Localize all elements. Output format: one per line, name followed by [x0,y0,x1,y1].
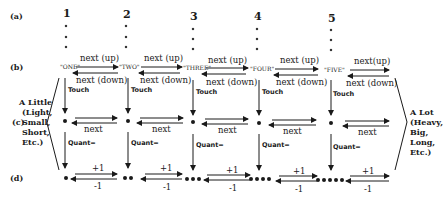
column-number-1: 1 [63,7,71,20]
word-one: "ONE" [60,63,80,70]
label-next-down-4: next (down) [276,77,327,87]
column-number-3: 3 [190,10,198,23]
left-side-line: Short, [19,127,52,137]
column-number-5: 5 [328,12,336,25]
label-next-c-5: next [358,127,377,137]
row-label-d: (d) [10,173,23,183]
label-next-up-1: next (up) [80,53,119,63]
diagram-lines [0,0,445,203]
label-quant-5: Quant= [333,143,361,151]
label-plus1-4: +1 [293,166,306,176]
label-plus1-2: +1 [160,163,173,173]
label-minus1-1: -1 [94,181,102,191]
left-side-line: (Light, [19,107,52,117]
right-side-label: A Lot (Heavy, Big, Long, Etc.) [410,107,443,157]
right-side-line: Etc.) [410,147,443,157]
label-next-c-4: next [283,126,302,136]
label-minus1-2: -1 [163,182,171,192]
label-quant-1: Quant= [68,139,96,147]
column-number-2: 2 [123,8,131,21]
left-side-line: Small, [19,117,52,127]
column-number-4: 4 [254,10,262,23]
left-side-label: A Little (Light, Small, Short, Etc.) [19,97,52,147]
label-plus1-3: +1 [226,165,239,175]
label-quant-2: Quant= [131,139,159,147]
left-side-line: A Little [19,97,52,107]
word-three: "THREE" [183,64,211,71]
label-next-down-2: next (down) [140,75,191,85]
label-minus1-4: -1 [295,184,303,194]
right-side-line: Long, [410,137,443,147]
label-next-down-3: next (down) [206,77,257,87]
label-touch-5: Touch [333,90,354,98]
word-five: "FIVE" [324,66,345,73]
label-minus1-3: -1 [229,183,237,193]
label-next-up-5: next(up) [354,56,390,66]
label-plus1-1: +1 [92,163,105,173]
label-next-up-4: next (up) [280,55,319,65]
label-touch-2: Touch [131,86,152,94]
right-side-line: (Heavy, [410,117,443,127]
row-label-a: (a) [10,11,23,21]
right-bracket [395,78,407,170]
right-side-line: Big, [410,127,443,137]
label-touch-4: Touch [262,88,283,96]
label-quant-4: Quant= [262,141,290,149]
label-next-c-1: next [84,124,103,134]
column-dots [65,25,332,51]
label-minus1-5: -1 [364,184,372,194]
label-plus1-5: +1 [362,166,375,176]
right-side-line: A Lot [410,107,443,117]
row-label-b: (b) [10,62,23,72]
word-four: "FOUR" [250,65,274,72]
word-two: "TWO" [119,63,140,70]
label-quant-3: Quant= [196,141,224,149]
label-next-up-3: next (up) [208,55,247,65]
label-next-c-3: next [218,125,237,135]
label-next-c-2: next [152,124,171,134]
label-touch-1: Touch [68,86,89,94]
label-touch-3: Touch [196,88,217,96]
label-next-down-5: next (down) [346,78,397,88]
label-next-up-2: next (up) [144,53,183,63]
left-side-line: Etc.) [19,137,52,147]
label-next-down-1: next (down) [76,75,127,85]
